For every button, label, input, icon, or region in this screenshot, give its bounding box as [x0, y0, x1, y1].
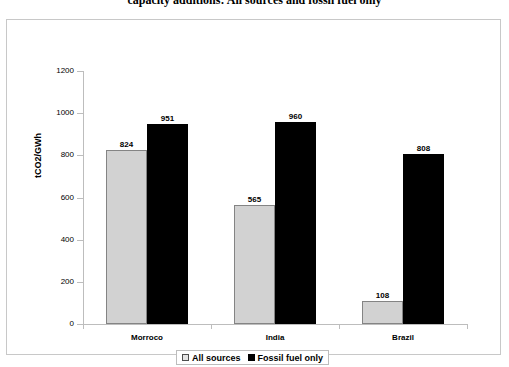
y-tick-mark — [77, 113, 83, 114]
y-tick-mark — [77, 198, 83, 199]
x-axis-tick — [467, 324, 468, 329]
y-tick-label: 800 — [61, 149, 74, 160]
bar-value-label: 808 — [417, 144, 430, 153]
y-tick-label: 1000 — [56, 107, 74, 118]
value-axis-line — [83, 71, 84, 325]
category-label-morroco: Morroco — [131, 333, 163, 343]
chart-legend: All sourcesFossil fuel only — [176, 350, 329, 365]
bar-morroco-fossil-fuel-only[interactable]: 951 — [147, 124, 188, 325]
y-axis-title: tCO2/GWh — [33, 133, 43, 178]
y-tick-mark — [77, 71, 83, 72]
y-tick-label: 600 — [61, 192, 74, 203]
bar-value-label: 108 — [376, 291, 389, 300]
y-tick-mark — [77, 240, 83, 241]
legend-label: Fossil fuel only — [258, 353, 324, 363]
bar-value-label: 960 — [289, 112, 302, 121]
category-label-india: India — [266, 333, 285, 343]
bar-india-fossil-fuel-only[interactable]: 960 — [275, 122, 316, 324]
bar-brazil-fossil-fuel-only[interactable]: 808 — [403, 154, 444, 324]
plot-area: 020040060080010001200 824951565960108808… — [83, 71, 467, 325]
bar-morroco-all-sources[interactable]: 824 — [106, 150, 147, 324]
legend-label: All sources — [192, 353, 241, 363]
bar-value-label: 951 — [161, 114, 174, 123]
y-tick-mark — [77, 282, 83, 283]
y-tick-label: 200 — [61, 276, 74, 287]
x-axis-tick — [339, 324, 340, 329]
bar-value-label: 565 — [248, 195, 261, 204]
bar-value-label: 824 — [120, 140, 133, 149]
category-label-brazil: Brazil — [392, 333, 414, 343]
chart-frame: tCO2/GWh 020040060080010001200 824951565… — [6, 19, 501, 355]
legend-item-fossil[interactable]: Fossil fuel only — [248, 353, 324, 363]
chart-title: capacity additions: All sources and foss… — [0, 0, 509, 6]
legend-swatch-icon — [182, 354, 189, 361]
x-axis-tick — [83, 324, 84, 329]
y-tick-label: 1200 — [56, 65, 74, 76]
x-axis-tick — [211, 324, 212, 329]
legend-item-all-sources[interactable]: All sources — [182, 353, 241, 363]
y-tick-label: 0 — [70, 318, 74, 329]
bar-india-all-sources[interactable]: 565 — [234, 205, 275, 324]
category-axis-line — [83, 324, 467, 325]
y-tick-label: 400 — [61, 234, 74, 245]
bar-brazil-all-sources[interactable]: 108 — [362, 301, 403, 324]
y-tick-mark — [77, 155, 83, 156]
legend-swatch-icon — [248, 354, 255, 361]
